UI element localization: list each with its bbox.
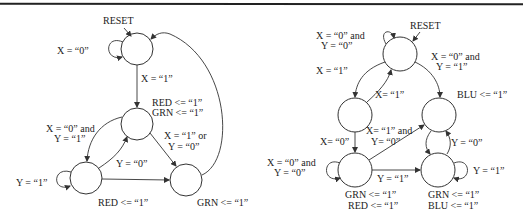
edge-label: Y= “0” <box>371 136 400 147</box>
state-right-idle <box>383 37 417 71</box>
output-label: GRN <= “1” <box>428 189 479 200</box>
state-left-red-grn <box>121 108 153 140</box>
state-diagrams: RESET X = “0” X = “1” RED <= “1” GRN <= … <box>0 0 523 222</box>
state-left-grn <box>170 164 202 196</box>
edge-label: Y = “0” <box>116 158 147 169</box>
edge-label: Y = “0” <box>274 167 305 178</box>
state-left-red <box>70 162 102 194</box>
edge-label: Y = “1” <box>54 133 85 144</box>
edge-label: Y = “1” <box>377 173 408 184</box>
output-label: RED <= “1” <box>348 200 398 211</box>
output-label: GRN <= “1” <box>197 197 248 208</box>
edge-label: X = “1” <box>141 73 173 84</box>
edge-label: X= “1” <box>375 89 404 100</box>
output-label: BLU <= “1” <box>428 200 478 211</box>
output-label: RED <= “1” <box>98 197 148 208</box>
edge-label: Y = “0” <box>451 137 482 148</box>
state-left-idle <box>121 33 153 65</box>
output-label: GRN <= “1” <box>152 107 203 118</box>
output-label: BLU <= “1” <box>457 89 507 100</box>
reset-label-right: RESET <box>410 20 441 31</box>
edge-label: X= “1” and <box>366 125 412 136</box>
edge-label: Y = “1” <box>473 165 504 176</box>
reset-label-left: RESET <box>103 15 134 26</box>
right-diagram: RESET X = “0” and Y = “0” X = “1” X = “0… <box>267 20 507 211</box>
edge-label: X = “0” <box>57 45 89 56</box>
edge-label: Y = “0” <box>321 40 352 51</box>
edge-label: X= “0” <box>320 136 349 147</box>
left-diagram: RESET X = “0” X = “1” RED <= “1” GRN <= … <box>16 15 248 208</box>
output-label: GRN <= “1” <box>345 189 396 200</box>
edge-label: X = “1” or <box>164 130 207 141</box>
edge-label: Y = “1” <box>16 177 47 188</box>
state-right-blu <box>422 98 456 132</box>
edge-label: Y = “0” <box>168 141 199 152</box>
edge-label: X = “1” <box>316 65 348 76</box>
edge-label: Y = “1” <box>436 61 467 72</box>
state-right-grn-blu <box>421 153 455 187</box>
state-right-grn-red <box>338 153 372 187</box>
